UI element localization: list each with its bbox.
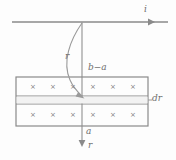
- field-cross-symbol: ×: [30, 112, 36, 119]
- differential-label: dr: [152, 94, 162, 103]
- physics-diagram: × × × × × × × × × × × × i r b−a dr a r: [0, 0, 176, 160]
- field-cross-symbol: ×: [70, 84, 76, 91]
- current-arrow-icon: [148, 19, 155, 26]
- field-cross-symbol: ×: [130, 112, 136, 119]
- field-cross-symbol: ×: [30, 84, 36, 91]
- diagram-canvas: [0, 0, 176, 160]
- field-cross-symbol: ×: [70, 112, 76, 119]
- inner-radius-label: a: [86, 127, 91, 136]
- field-cross-symbol: ×: [130, 84, 136, 91]
- field-cross-symbol: ×: [50, 112, 56, 119]
- field-cross-symbol: ×: [90, 84, 96, 91]
- field-cross-symbol: ×: [90, 112, 96, 119]
- radius-axis-label: r: [88, 141, 92, 150]
- thickness-label: b−a: [88, 63, 107, 72]
- field-cross-symbol: ×: [110, 112, 116, 119]
- radius-upper-label: r: [65, 52, 69, 61]
- radial-axis-arrow-icon: [79, 140, 86, 147]
- field-cross-symbol: ×: [110, 84, 116, 91]
- current-label: i: [144, 5, 147, 14]
- field-cross-symbol: ×: [50, 84, 56, 91]
